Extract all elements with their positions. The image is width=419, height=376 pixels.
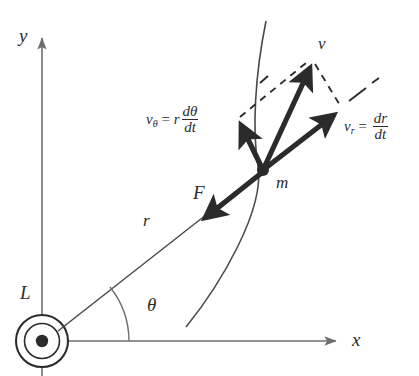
mass-label: m [276,174,288,191]
velocity-parallelogram-dashed-extensions [260,76,379,101]
velocity-theta-component-vector [241,125,263,170]
diagram-canvas [0,0,419,376]
y-axis-label: y [19,26,27,45]
velocity-label: v [318,35,326,52]
physics-diagram-figure: y x L m F r θ v vθ = r dθ dt vr = dr dt [0,0,419,376]
dashed-vtheta-to-v [240,63,306,117]
vtheta-symbol: v [146,112,153,127]
force-vector [205,171,264,218]
radius-label: r [143,212,150,229]
force-label: F [193,183,205,202]
vr-fraction: dr dt [372,111,389,142]
x-axis-label: x [352,330,360,349]
dashed-extension-upper-right-1 [349,88,366,101]
vr-equals: = [355,119,371,134]
vtheta-equals: = [158,112,174,127]
vr-numerator: dr [372,111,389,126]
vtheta-denominator: dt [182,119,198,135]
vtheta-numerator: dθ [181,104,200,119]
angular-momentum-dot [36,335,48,347]
angular-momentum-label: L [20,283,31,302]
vr-symbol: v [344,119,351,134]
vr-subscript: r [351,126,355,136]
vtheta-subscript: θ [153,119,158,129]
vr-denominator: dt [373,126,389,142]
velocity-radial-equation: vr = dr dt [344,111,389,142]
dashed-v-to-vr [315,64,341,107]
dashed-extension-upper-right-2 [372,78,379,83]
dashed-extension-inner-tick [260,76,268,83]
velocity-theta-equation: vθ = r dθ dt [146,104,199,135]
vtheta-coefficient: r [174,112,180,127]
theta-label: θ [147,295,156,314]
angular-momentum-symbol [16,315,68,367]
theta-arc [110,287,129,341]
vtheta-fraction: dθ dt [181,104,200,135]
trajectory-curve [186,21,266,327]
mass-point-marker [257,164,269,176]
